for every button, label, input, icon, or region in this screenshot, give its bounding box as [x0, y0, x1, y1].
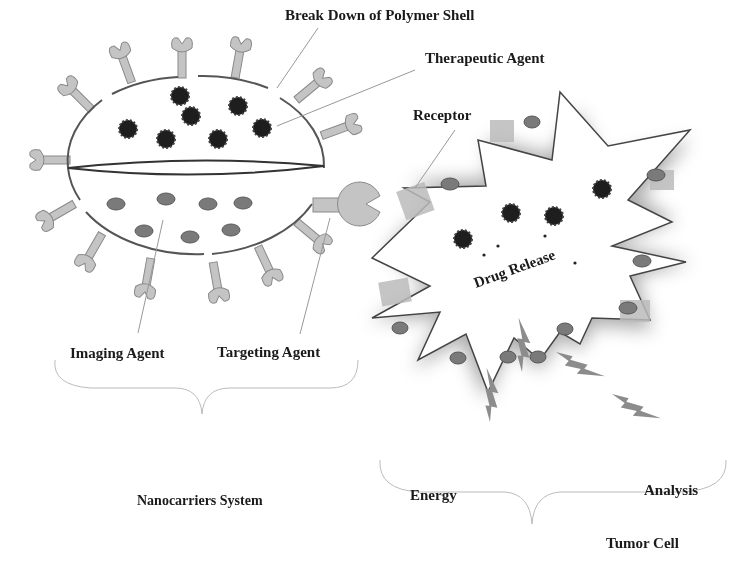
label-imaging-agent: Imaging Agent: [70, 345, 165, 361]
nanocarrier-shell: [68, 76, 324, 254]
diagram-canvas: Break Down of Polymer Shell Therapeutic …: [0, 0, 744, 574]
label-nanocarriers-system: Nanocarriers System: [137, 493, 263, 508]
label-break-down: Break Down of Polymer Shell: [285, 7, 474, 23]
tumor-cell: [370, 92, 690, 400]
label-energy: Energy: [410, 487, 457, 503]
label-tumor-cell: Tumor Cell: [606, 535, 679, 551]
label-analysis: Analysis: [644, 482, 698, 498]
nanocarrier-diagram: Break Down of Polymer Shell Therapeutic …: [0, 0, 744, 574]
label-receptor: Receptor: [413, 107, 472, 123]
label-targeting-agent: Targeting Agent: [217, 344, 320, 360]
label-therapeutic-agent: Therapeutic Agent: [425, 50, 545, 66]
targeting-ligand: [313, 182, 380, 226]
nanocarrier-brace: [55, 360, 358, 414]
therapeutic-particles: [119, 87, 271, 148]
imaging-particles: [107, 193, 252, 243]
